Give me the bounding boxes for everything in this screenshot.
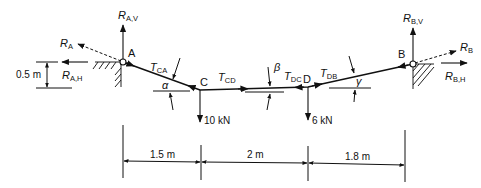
tension-ca-arrow-at-a: [126, 63, 134, 66]
tension-cd-label: TCD: [218, 71, 236, 85]
reaction-b-resultant-arrow: [415, 51, 456, 63]
span-2-label: 2 m: [247, 149, 264, 160]
reaction-b-resultant-label: RB: [460, 41, 473, 55]
reaction-b-horizontal-label: RB,H: [445, 70, 465, 84]
pin-b-icon: [410, 61, 416, 67]
angle-beta-label: β: [273, 61, 281, 73]
tension-db-label: TDB: [320, 67, 337, 81]
span-1-label: 1.5 m: [150, 149, 175, 160]
support-a: RA,V RA RA,H A: [60, 9, 138, 87]
reaction-a-vertical-label: RA,V: [118, 9, 138, 23]
point-c-label: C: [200, 76, 208, 88]
load-d-label: 6 kN: [312, 115, 333, 126]
reaction-a-resultant-label: RA: [60, 37, 73, 51]
support-a-hatch-icon: [93, 62, 121, 87]
support-b-hatch-icon: [413, 64, 434, 89]
support-b: RB,V RB RB,H B: [398, 12, 473, 89]
span-3-label: 1.8 m: [345, 151, 370, 162]
point-a-label: A: [128, 47, 136, 59]
point-d-label: D: [303, 73, 311, 85]
angle-alpha-label: α: [162, 79, 169, 91]
reaction-a-resultant-arrow: [78, 44, 121, 61]
reaction-a-horizontal-label: RA,H: [62, 69, 82, 83]
angle-gamma-label: γ: [356, 75, 363, 87]
tension-dc-label: TDC: [284, 70, 302, 84]
cable-free-body-diagram: RA,V RA RA,H A 0.5 m TCA TCD TDC TDB C 1…: [0, 0, 481, 188]
load-c-label: 10 kN: [204, 115, 230, 126]
reaction-b-vertical-label: RB,V: [403, 12, 423, 26]
point-b-label: B: [398, 48, 405, 60]
pin-a-icon: [120, 59, 126, 65]
tension-ca-label: TCA: [150, 61, 167, 75]
height-dimension-label: 0.5 m: [16, 69, 41, 80]
tension-ca-arrow-at-c: [188, 86, 196, 89]
